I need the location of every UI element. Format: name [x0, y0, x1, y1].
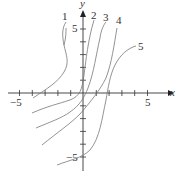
y-tick-label-5: 5 — [72, 22, 78, 34]
curve-label-1: 1 — [62, 10, 68, 22]
curve-label-4: 4 — [116, 14, 122, 26]
leader-1 — [64, 28, 66, 45]
x-tick-label-neg5: −5 — [10, 96, 22, 108]
y-axis-label: y — [79, 0, 85, 9]
curve-3 — [36, 22, 106, 128]
x-tick-label-5: 5 — [145, 96, 151, 108]
y-arrow-icon — [80, 10, 86, 17]
curve-4 — [42, 28, 117, 145]
curve-label-3: 3 — [103, 11, 109, 23]
plot-svg: −5 5 5 −5 x y 1 2 3 4 5 — [0, 0, 178, 171]
x-axis-label: x — [169, 86, 175, 98]
curve-1 — [33, 22, 67, 98]
curve-5 — [57, 46, 136, 165]
math-plot: −5 5 5 −5 x y 1 2 3 4 5 — [0, 0, 178, 171]
curve-label-2: 2 — [91, 9, 97, 21]
curve-label-5: 5 — [138, 40, 144, 52]
